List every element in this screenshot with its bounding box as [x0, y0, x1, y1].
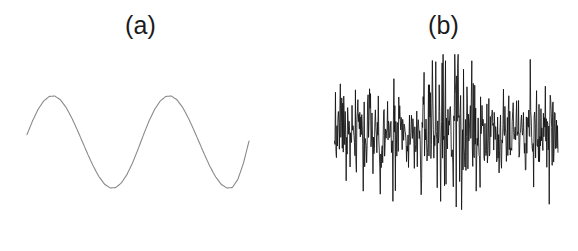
clean-sine-curve — [27, 96, 249, 188]
panel-b: (b) — [289, 0, 578, 251]
panel-a-plot — [0, 0, 289, 251]
panel-b-plot — [289, 0, 578, 251]
panel-a: (a) — [0, 0, 289, 251]
figure-root: (a) (b) — [0, 0, 578, 251]
noisy-signal-curve — [334, 54, 558, 209]
